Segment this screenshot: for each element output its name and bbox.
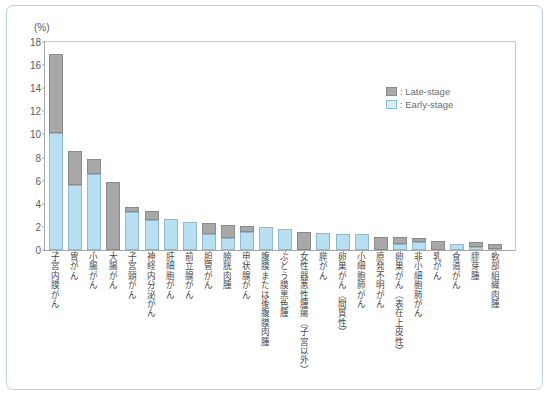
bar-column[interactable] <box>336 234 350 250</box>
x-axis-tick-label: 原発不明がん <box>374 252 383 308</box>
x-axis-tick-label: 小腸がん <box>87 252 96 290</box>
x-axis-tick-label: 膀胱肉腫 <box>221 252 230 290</box>
x-axis-tick-label: 甲状腺がん <box>240 252 249 299</box>
bar-column[interactable] <box>412 238 426 250</box>
bar-column[interactable] <box>164 219 178 250</box>
bar-segment-late-stage[interactable] <box>393 237 407 244</box>
x-axis-tick-label: 軟部組織肉腫 <box>488 252 497 308</box>
chart-frame: (%) 024681012141618 : Late-stage : Early… <box>6 5 543 390</box>
bar-segment-late-stage[interactable] <box>87 159 101 174</box>
bar-column[interactable] <box>145 211 159 250</box>
bar-column[interactable] <box>431 241 445 250</box>
bar-column[interactable] <box>469 242 483 250</box>
bar-column[interactable] <box>259 227 273 250</box>
y-axis-tick-label: 2 <box>35 221 41 232</box>
bar-segment-early-stage[interactable] <box>316 233 330 250</box>
bar-segment-early-stage[interactable] <box>355 234 369 250</box>
plot-area: 024681012141618 <box>44 41 516 251</box>
x-axis-tick-label: 卵巣がん（間質性） <box>336 252 345 337</box>
bar-column[interactable] <box>125 207 139 250</box>
bar-segment-late-stage[interactable] <box>431 241 445 250</box>
y-axis-tick-label: 6 <box>35 175 41 186</box>
x-axis-labels: 子宮内膜がん胃がん小腸がん大腸がん子宮頸がん神経内分泌がん肝細胞がん前立腺がん胆… <box>44 252 524 392</box>
y-axis-tick-label: 10 <box>30 129 41 140</box>
x-axis-tick-label: 大腸がん <box>106 252 115 290</box>
bar-column[interactable] <box>374 237 388 250</box>
bar-segment-early-stage[interactable] <box>278 229 292 250</box>
y-axis-tick-label: 16 <box>30 60 41 71</box>
bar-segment-late-stage[interactable] <box>202 223 216 233</box>
bar-segment-late-stage[interactable] <box>488 244 502 249</box>
bar-column[interactable] <box>393 237 407 250</box>
x-axis-tick-label: 小細胞肺がん <box>355 252 364 308</box>
x-axis-tick-label: 卵巣がん（表在上皮性） <box>393 252 402 355</box>
y-axis-tick-label: 4 <box>35 198 41 209</box>
x-axis-tick-label: 腹膜または後腹膜肉腫 <box>259 252 268 346</box>
x-axis-tick-label: 非小細胞肺がん <box>412 252 421 318</box>
bar-segment-early-stage[interactable] <box>221 238 235 250</box>
bar-column[interactable] <box>68 151 82 250</box>
chart-legend: : Late-stage : Early-stage <box>386 85 453 111</box>
bar-segment-late-stage[interactable] <box>106 182 120 250</box>
x-axis-tick-label: 子宮内膜がん <box>49 252 58 308</box>
legend-swatch-early-stage-icon <box>386 100 397 109</box>
bar-segment-late-stage[interactable] <box>49 54 63 134</box>
bar-segment-late-stage[interactable] <box>412 238 426 241</box>
legend-label-early-stage: : Early-stage <box>400 98 453 111</box>
x-axis-tick-label: 乳がん <box>431 252 440 280</box>
bar-segment-early-stage[interactable] <box>125 212 139 250</box>
x-axis-tick-label: ぶどう膜黒色腫 <box>278 252 287 318</box>
x-axis-tick-label: 神経内分泌がん <box>145 252 154 318</box>
bar-column[interactable] <box>221 225 235 250</box>
bar-segment-late-stage[interactable] <box>469 242 483 247</box>
legend-swatch-late-stage-icon <box>386 87 397 96</box>
x-axis-tick-label: 膵がん <box>316 252 325 280</box>
bar-column[interactable] <box>297 232 311 250</box>
bar-segment-late-stage[interactable] <box>221 225 235 239</box>
bar-column[interactable] <box>49 54 63 250</box>
x-axis-tick-label: 前立腺がん <box>183 252 192 299</box>
bar-column[interactable] <box>183 222 197 250</box>
bar-column[interactable] <box>316 233 330 250</box>
bar-series-group <box>45 42 515 250</box>
bar-segment-early-stage[interactable] <box>183 222 197 250</box>
x-axis-tick-label: 女性器悪性腫瘍（子宮以外） <box>297 252 306 374</box>
bar-segment-early-stage[interactable] <box>68 185 82 250</box>
bar-segment-late-stage[interactable] <box>145 211 159 220</box>
x-axis-tick-label: 胃がん <box>68 252 77 280</box>
bar-column[interactable] <box>278 229 292 250</box>
bar-segment-late-stage[interactable] <box>240 226 254 232</box>
y-axis-unit-label: (%) <box>34 22 50 33</box>
bar-segment-late-stage[interactable] <box>68 151 82 186</box>
legend-item-late-stage: : Late-stage <box>386 85 453 98</box>
legend-item-early-stage: : Early-stage <box>386 98 453 111</box>
x-axis-tick-label: 膠芽腫 <box>469 252 478 280</box>
bar-segment-early-stage[interactable] <box>336 234 350 250</box>
y-axis-tick-label: 18 <box>30 37 41 48</box>
bar-segment-late-stage[interactable] <box>374 237 388 250</box>
bar-column[interactable] <box>87 159 101 250</box>
y-axis-tick-label: 0 <box>35 245 41 256</box>
bar-segment-early-stage[interactable] <box>202 234 216 250</box>
bar-segment-early-stage[interactable] <box>49 133 63 250</box>
x-axis-tick-label: 胆管がん <box>202 252 211 290</box>
bar-segment-early-stage[interactable] <box>259 227 273 250</box>
x-axis-tick-label: 食道がん <box>450 252 459 290</box>
y-axis-tick-label: 8 <box>35 152 41 163</box>
bar-segment-early-stage[interactable] <box>87 174 101 250</box>
y-axis-tick-label: 12 <box>30 106 41 117</box>
x-axis-tick-label: 子宮頸がん <box>125 252 134 299</box>
bar-column[interactable] <box>355 234 369 250</box>
x-axis-tick-label: 肝細胞がん <box>164 252 173 299</box>
bar-segment-late-stage[interactable] <box>297 232 311 250</box>
bar-column[interactable] <box>106 182 120 250</box>
bar-segment-early-stage[interactable] <box>412 242 426 250</box>
bar-column[interactable] <box>202 223 216 250</box>
legend-label-late-stage: : Late-stage <box>400 85 450 98</box>
bar-column[interactable] <box>240 226 254 250</box>
bar-segment-early-stage[interactable] <box>164 219 178 250</box>
bar-segment-early-stage[interactable] <box>240 232 254 250</box>
y-axis-tick-label: 14 <box>30 83 41 94</box>
bar-segment-early-stage[interactable] <box>145 220 159 250</box>
bar-segment-late-stage[interactable] <box>125 207 139 212</box>
